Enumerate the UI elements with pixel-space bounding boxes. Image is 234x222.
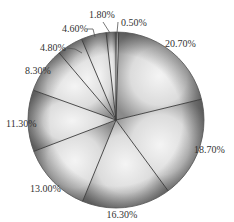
slice-label: 18.70% [194, 144, 225, 155]
slice-label: 11.30% [6, 118, 36, 129]
slice-label: 0.50% [121, 17, 147, 28]
slice-label: 4.60% [62, 23, 88, 34]
slice-label: 16.30% [107, 209, 138, 220]
pie-chart: 0.50%20.70%18.70%16.30%13.00%11.30%8.30%… [0, 0, 234, 222]
slice-label: 8.30% [25, 65, 51, 76]
label-leader-line [117, 22, 118, 33]
slice-label: 4.80% [40, 42, 66, 53]
slice-label: 1.80% [89, 9, 115, 20]
slice-label: 20.70% [165, 38, 196, 49]
slice-label: 13.00% [30, 183, 61, 194]
label-leader-line [103, 22, 110, 33]
